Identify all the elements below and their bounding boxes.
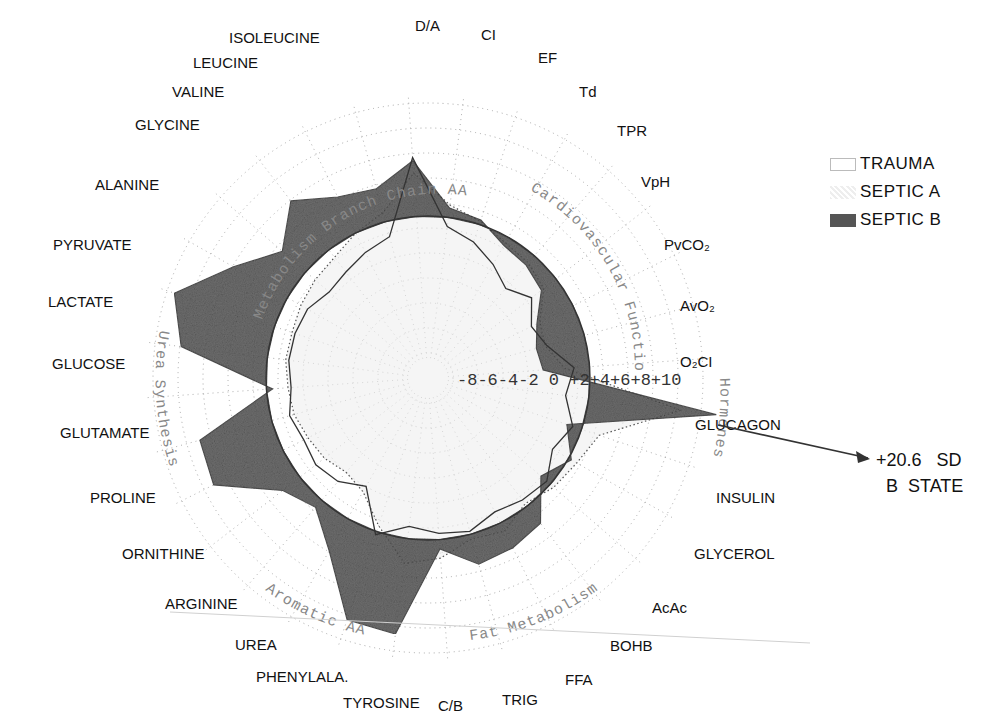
annotation-state: B STATE — [876, 473, 963, 499]
axis-label-tpr: TPR — [617, 122, 647, 139]
axis-label-trig: TRIG — [502, 691, 538, 708]
legend-label: TRAUMA — [860, 154, 935, 174]
axis-label-insulin: INSULIN — [716, 489, 775, 506]
glucagon-arrow — [718, 425, 870, 463]
glucagon-annotation: +20.6 SD B STATE — [876, 447, 963, 499]
axis-label-c-b: C/B — [438, 697, 463, 714]
axis-label-ef: EF — [538, 49, 557, 66]
axis-label-pvco2: PvCO₂ — [664, 236, 710, 253]
group-label-fat: Fat Metabolism — [468, 579, 601, 645]
axis-label-td: Td — [579, 83, 597, 100]
annotation-value: +20.6 SD — [876, 447, 963, 473]
axis-label-vph: VpH — [641, 173, 670, 190]
axis-label-ci: CI — [481, 26, 496, 43]
axis-label-glutamate: GLUTAMATE — [60, 424, 149, 441]
axis-label-d-a: D/A — [415, 17, 440, 34]
axis-label-glycerol: GLYCEROL — [694, 545, 775, 562]
legend-label: SEPTIC A — [860, 182, 941, 202]
axis-label-bohb: BOHB — [610, 637, 653, 654]
axis-label-phenylala-: PHENYLALA. — [256, 668, 349, 685]
axis-label-ffa: FFA — [565, 671, 593, 688]
legend-item-trauma: TRAUMA — [830, 150, 941, 178]
legend-label: SEPTIC B — [860, 210, 941, 230]
legend-item-septic-a: SEPTIC A — [830, 178, 941, 206]
axis-label-isoleucine: ISOLEUCINE — [229, 29, 320, 46]
axis-label-acac: AcAc — [652, 599, 688, 616]
axis-label-urea: UREA — [235, 636, 277, 653]
axis-label-ornithine: ORNITHINE — [122, 545, 205, 562]
radial-scale-labels: -8-6-4-2 0 +2+4+6+8+10 — [457, 371, 681, 390]
axis-label-glycine: GLYCINE — [135, 116, 200, 133]
axis-label-valine: VALINE — [172, 83, 224, 100]
axis-label-alanine: ALANINE — [95, 176, 159, 193]
axis-label-pyruvate: PYRUVATE — [53, 236, 132, 253]
legend-item-septic-b: SEPTIC B — [830, 206, 941, 234]
legend: TRAUMA SEPTIC A SEPTIC B — [830, 150, 941, 234]
axis-label-proline: PROLINE — [90, 489, 156, 506]
axis-label-tyrosine: TYROSINE — [343, 694, 420, 711]
axis-label-leucine: LEUCINE — [193, 54, 258, 71]
axis-label-glucagon: GLUCAGON — [695, 416, 781, 433]
septic-a-swatch — [830, 186, 856, 199]
axis-label-lactate: LACTATE — [48, 293, 113, 310]
trauma-swatch — [830, 158, 856, 171]
axis-label-avo2: AvO₂ — [680, 297, 715, 314]
axis-label-arginine: ARGININE — [165, 595, 238, 612]
septic-b-swatch — [830, 214, 856, 227]
group-label-urea: Urea Synthesis — [150, 329, 182, 470]
axis-label-o2ci: O₂CI — [680, 353, 713, 370]
axis-label-glucose: GLUCOSE — [52, 355, 125, 372]
radar-chart: -8-6-4-2 0 +2+4+6+8+10 Metabolism Branch… — [0, 0, 999, 724]
